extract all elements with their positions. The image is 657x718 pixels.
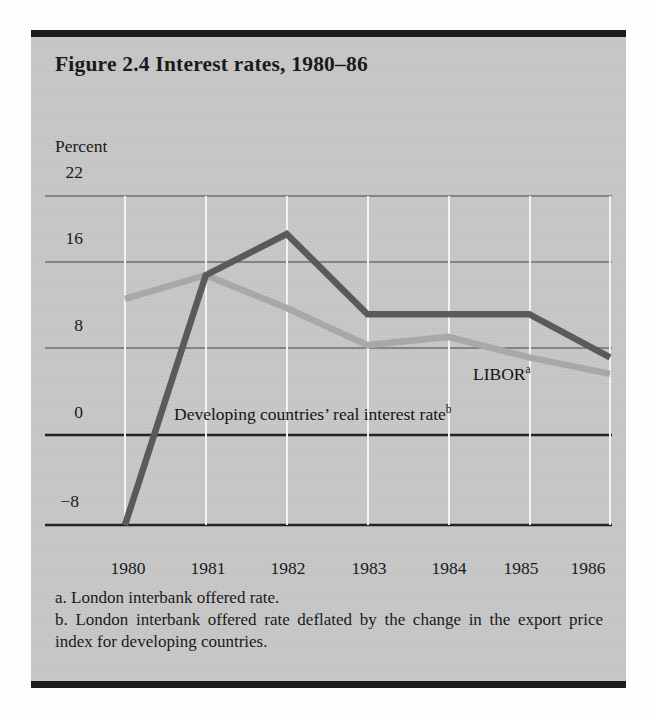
footnote-b: b. London interbank offered rate deflate… (55, 609, 603, 653)
series-label-libor-footnote-marker: a (526, 363, 531, 375)
series-label-developing-countries: Developing countries’ real interest rate… (174, 403, 452, 425)
figure-footnotes: a. London interbank offered rate. b. Lon… (55, 587, 603, 652)
series-label-developing-footnote-marker: b (446, 403, 452, 415)
series-label-libor-text: LIBOR (473, 364, 526, 384)
figure-page: Figure 2.4 Interest rates, 1980–86 Perce… (0, 0, 657, 718)
figure-bottom-rule (31, 681, 626, 688)
footnote-a: a. London interbank offered rate. (55, 587, 603, 609)
figure-top-rule (31, 30, 626, 37)
series-label-developing-text: Developing countries’ real interest rate (174, 404, 446, 424)
figure-panel: Figure 2.4 Interest rates, 1980–86 Perce… (31, 30, 626, 688)
series-label-libor: LIBORa (473, 363, 531, 385)
